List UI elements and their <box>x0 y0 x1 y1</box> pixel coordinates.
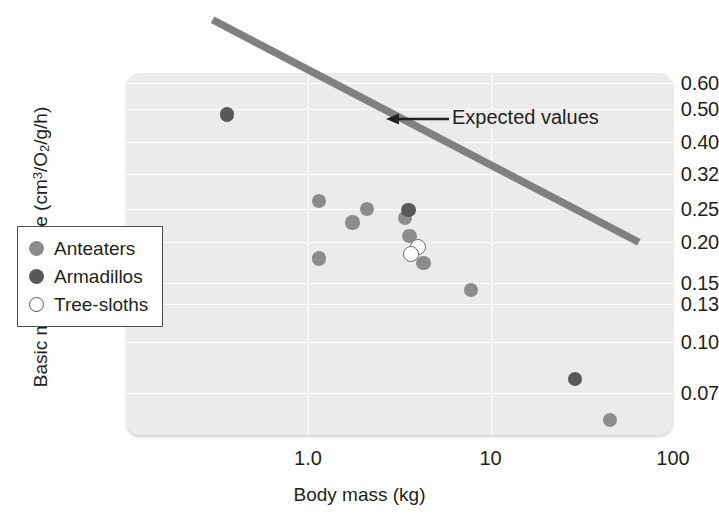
data-point-treesloths <box>403 246 419 262</box>
vertical-gridline <box>308 73 309 435</box>
legend-label: Armadillos <box>54 267 143 286</box>
x-axis-tick-label: 10 <box>446 448 536 468</box>
data-point-anteaters <box>360 202 374 216</box>
horizontal-gridline <box>126 174 673 175</box>
horizontal-gridline <box>126 283 673 284</box>
data-point-anteaters <box>603 413 617 427</box>
y-axis-tick-label: 0.60 <box>601 73 719 93</box>
data-point-armadillos <box>220 107 234 121</box>
data-point-anteaters <box>345 215 359 229</box>
data-point-anteaters <box>464 283 478 297</box>
legend-item-anteaters: Anteaters <box>29 234 148 262</box>
y-axis-tick-label: 0.32 <box>601 164 719 184</box>
y-axis-title-subscript: 2 <box>37 145 52 152</box>
chart-legend: AnteatersArmadillosTree-sloths <box>17 226 163 327</box>
expected-values-annotation: Expected values <box>452 106 599 128</box>
legend-item-treesloths: Tree-sloths <box>29 290 148 318</box>
y-axis-tick-label: 0.15 <box>601 273 719 293</box>
y-axis-title-post: /g/h) <box>30 107 51 145</box>
y-axis-tick-label: 0.20 <box>601 232 719 252</box>
legend-marker-treesloths-icon <box>29 297 44 312</box>
x-axis-title: Body mass (kg) <box>0 484 719 506</box>
data-point-anteaters <box>312 251 326 265</box>
legend-item-armadillos: Armadillos <box>29 262 148 290</box>
y-axis-tick-label: 0.10 <box>601 332 719 352</box>
horizontal-gridline <box>126 342 673 343</box>
x-axis-tick-label: 1.0 <box>263 448 353 468</box>
legend-marker-anteaters-icon <box>29 241 44 256</box>
legend-marker-armadillos-icon <box>29 269 44 284</box>
horizontal-gridline <box>126 393 673 394</box>
y-axis-title-mid: /O <box>30 152 51 172</box>
y-axis-tick-label: 0.25 <box>601 199 719 219</box>
legend-label: Anteaters <box>54 239 135 258</box>
y-axis-tick-label: 0.50 <box>601 99 719 119</box>
y-axis-tick-label: 0.40 <box>601 132 719 152</box>
y-axis-title-superscript: 3 <box>30 172 45 179</box>
horizontal-gridline <box>126 304 673 305</box>
x-axis-tick-label: 100 <box>628 448 718 468</box>
legend-label: Tree-sloths <box>54 295 148 314</box>
scatter-chart-figure: 0.600.500.400.320.250.200.150.130.100.07… <box>0 0 719 526</box>
horizontal-gridline <box>126 209 673 210</box>
data-point-armadillos <box>401 203 415 217</box>
horizontal-gridline <box>126 242 673 243</box>
horizontal-gridline <box>126 83 673 84</box>
y-axis-tick-label: 0.07 <box>601 383 719 403</box>
horizontal-gridline <box>126 142 673 143</box>
y-axis-tick-label: 0.13 <box>601 294 719 314</box>
